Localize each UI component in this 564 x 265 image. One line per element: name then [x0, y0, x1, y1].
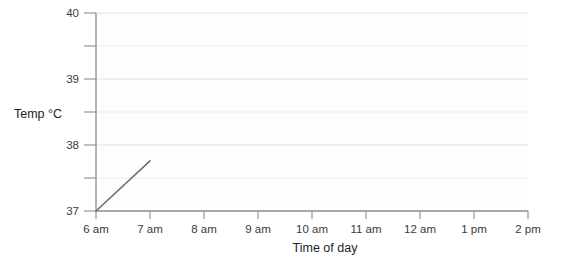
x-tick-label-6am: 6 am	[83, 223, 109, 235]
y-tick-label-40: 40	[66, 7, 79, 19]
y-tick-label-37: 37	[66, 205, 79, 217]
x-axis-title: Time of day	[293, 241, 359, 255]
y-tick-label-38: 38	[66, 139, 79, 151]
chart-canvas: 40 39 38 37 6 am 7 am 8 am 9 am 10 am 11…	[0, 0, 564, 265]
x-axis: 6 am 7 am 8 am 9 am 10 am 11 am 12 am 1 …	[83, 211, 541, 235]
x-tick-label-12am: 12 am	[404, 223, 436, 235]
x-tick-label-11am: 11 am	[350, 223, 381, 235]
x-tick-label-10am: 10 am	[296, 223, 328, 235]
x-tick-label-9am: 9 am	[245, 223, 271, 235]
y-tick-label-39: 39	[66, 73, 79, 85]
y-axis-title: Temp °C	[14, 107, 62, 121]
temperature-line-chart: 40 39 38 37 6 am 7 am 8 am 9 am 10 am 11…	[0, 0, 564, 265]
y-axis: 40 39 38 37	[66, 7, 96, 217]
x-tick-label-8am: 8 am	[191, 223, 217, 235]
x-tick-label-7am: 7 am	[137, 223, 163, 235]
x-tick-label-2pm: 2 pm	[515, 223, 541, 235]
x-tick-label-1pm: 1 pm	[461, 223, 487, 235]
